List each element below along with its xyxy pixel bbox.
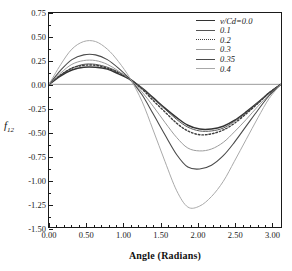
legend-item-2[interactable]: 0.2 <box>196 35 282 45</box>
x-axis-minor-tick <box>71 225 72 227</box>
legend-line-swatch-5 <box>196 68 215 69</box>
legend-item-1[interactable]: 0.1 <box>196 26 282 36</box>
x-axis-tick-label: 2.50 <box>228 231 243 240</box>
y-axis-tick-mark <box>49 133 53 134</box>
x-axis-minor-tick <box>56 225 57 227</box>
x-axis-minor-tick <box>153 225 154 227</box>
y-axis-minor-tick <box>49 25 51 26</box>
legend-item-5[interactable]: 0.4 <box>196 64 282 74</box>
legend-label-2: 0.2 <box>220 36 231 45</box>
legend-label-1: 0.1 <box>220 26 231 35</box>
y-axis-tick-mark <box>49 109 53 110</box>
x-axis-tick-label: 2.00 <box>191 231 206 240</box>
legend-line-swatch-0 <box>196 20 215 21</box>
y-axis-minor-tick <box>49 193 51 194</box>
y-axis-tick-label: 0.00 <box>31 81 46 90</box>
x-axis-label: Angle (Radians) <box>48 250 282 261</box>
y-axis-tick-mark <box>49 205 53 206</box>
legend-line-swatch-1 <box>196 30 215 31</box>
y-axis-tick-label: -0.75 <box>28 153 46 162</box>
x-axis-minor-tick <box>64 225 65 227</box>
y-axis-tick-mark <box>49 61 53 62</box>
legend-label-4: 0.35 <box>220 55 235 64</box>
x-axis-minor-tick <box>94 225 95 227</box>
x-axis-minor-tick <box>146 225 147 227</box>
x-axis-tick-mark <box>123 223 124 227</box>
x-axis-tick-mark <box>272 223 273 227</box>
y-axis-tick-mark <box>49 37 53 38</box>
x-axis-minor-tick <box>168 225 169 227</box>
x-axis-tick-mark <box>86 223 87 227</box>
x-axis-minor-tick <box>220 225 221 227</box>
legend-item-0[interactable]: v/Cd=0.0 <box>196 16 282 26</box>
y-axis-tick-label: 0.25 <box>31 57 46 66</box>
y-axis-minor-tick <box>49 217 51 218</box>
x-axis-minor-tick <box>258 225 259 227</box>
x-axis-minor-tick <box>205 225 206 227</box>
x-axis-tick-label: 1.00 <box>116 231 131 240</box>
x-axis-minor-tick <box>101 225 102 227</box>
legend-item-4[interactable]: 0.35 <box>196 54 282 64</box>
y-axis-minor-tick <box>49 121 51 122</box>
y-axis-minor-tick <box>49 73 51 74</box>
y-axis-minor-tick <box>49 169 51 170</box>
x-axis-minor-tick <box>191 225 192 227</box>
legend-line-swatch-2 <box>196 39 215 40</box>
x-axis-tick-label: 0.00 <box>42 231 57 240</box>
x-axis-tick-mark <box>235 223 236 227</box>
y-axis-tick-label: -1.25 <box>28 201 46 210</box>
x-axis-tick-mark <box>161 223 162 227</box>
x-axis-tick-label: 3.00 <box>265 231 280 240</box>
x-axis-minor-tick <box>243 225 244 227</box>
legend-line-swatch-4 <box>196 59 215 60</box>
x-axis-minor-tick <box>116 225 117 227</box>
x-axis-minor-tick <box>131 225 132 227</box>
y-axis-tick-mark <box>49 13 53 14</box>
x-axis-minor-tick <box>213 225 214 227</box>
y-axis-tick-label: -0.50 <box>28 129 46 138</box>
y-axis-tick-label: 0.75 <box>31 9 46 18</box>
chart-legend: v/Cd=0.00.10.20.30.350.4 <box>196 16 282 74</box>
legend-label-3: 0.3 <box>220 45 231 54</box>
x-axis-tick-label: 1.50 <box>153 231 168 240</box>
y-axis-tick-label: -1.00 <box>28 177 46 186</box>
y-axis-tick-label: -0.25 <box>28 105 46 114</box>
legend-item-3[interactable]: 0.3 <box>196 45 282 55</box>
series-line-2 <box>49 65 281 135</box>
x-axis-minor-tick <box>265 225 266 227</box>
y-axis-tick-mark <box>49 85 53 86</box>
y-axis-minor-tick <box>49 145 51 146</box>
x-axis-tick-mark <box>198 223 199 227</box>
y-axis-minor-tick <box>49 97 51 98</box>
y-axis-tick-label: 0.50 <box>31 33 46 42</box>
legend-label-5: 0.4 <box>220 65 231 74</box>
y-axis-minor-tick <box>49 49 51 50</box>
y-axis-label: f12 <box>4 120 14 134</box>
series-line-3 <box>49 60 281 151</box>
x-axis-minor-tick <box>138 225 139 227</box>
y-axis-label-text: f12 <box>4 119 14 131</box>
x-axis-minor-tick <box>109 225 110 227</box>
legend-line-swatch-3 <box>196 49 215 50</box>
series-line-1 <box>49 64 281 131</box>
x-axis-minor-tick <box>183 225 184 227</box>
figure-container: f12 0.750.500.250.00-0.25-0.50-0.75-1.00… <box>0 0 292 271</box>
x-axis-minor-tick <box>250 225 251 227</box>
legend-label-0: v/Cd=0.0 <box>220 17 252 26</box>
y-axis-tick-mark <box>49 181 53 182</box>
x-axis-minor-tick <box>228 225 229 227</box>
x-axis-minor-tick <box>79 225 80 227</box>
x-axis-minor-tick <box>176 225 177 227</box>
x-axis-tick-label: 0.50 <box>79 231 94 240</box>
x-axis-tick-mark <box>49 223 50 227</box>
y-axis-tick-mark <box>49 157 53 158</box>
